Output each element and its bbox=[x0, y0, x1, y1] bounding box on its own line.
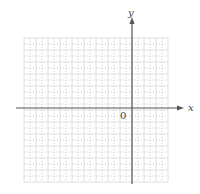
grid-lines bbox=[24, 38, 168, 182]
y-axis-arrow-icon bbox=[130, 17, 135, 24]
x-axis-label: x bbox=[188, 102, 194, 113]
origin-label: 0 bbox=[120, 110, 126, 121]
axes bbox=[16, 17, 184, 184]
x-axis-arrow-icon bbox=[177, 106, 184, 111]
coordinate-plane: x y 0 bbox=[0, 0, 200, 194]
y-axis-label: y bbox=[127, 7, 134, 18]
